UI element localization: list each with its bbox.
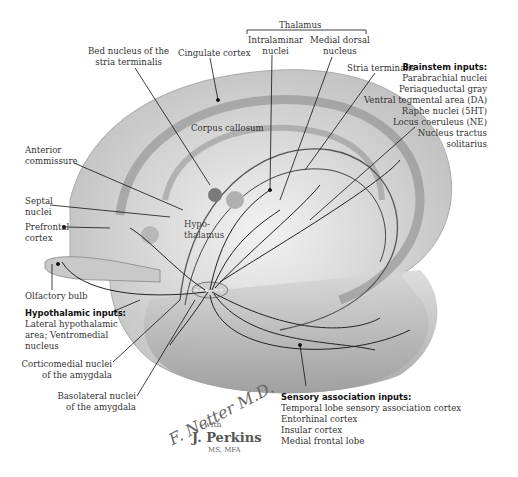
hypothalamic-inputs-list: Hypothalamic inputs: Lateral hypothalami… <box>25 308 126 352</box>
label-olfactory-bulb: Olfactory bulb <box>25 291 88 302</box>
label-prefrontal-cortex: Prefrontal cortex <box>25 222 69 244</box>
amygdala-inputs-illustration: Thalamus Intralaminar nuclei Medial dors… <box>0 0 518 477</box>
sensory-association-inputs-heading: Sensory association inputs: <box>281 392 461 403</box>
label-thalamus: Thalamus <box>279 20 321 31</box>
hypothalamic-inputs-heading: Hypothalamic inputs: <box>25 308 126 319</box>
label-intralaminar-nuclei: Intralaminar nuclei <box>248 35 303 57</box>
label-hypothalamus: Hypo- thalamus <box>184 219 224 241</box>
label-corticomedial-nuclei: Corticomedial nuclei of the amygdala <box>21 359 112 381</box>
label-medial-dorsal-nucleus: Medial dorsal nucleus <box>310 35 370 57</box>
label-septal-nuclei: Septal nuclei <box>25 196 53 218</box>
signature-credentials: MS, MFA <box>208 446 241 454</box>
sensory-association-inputs-list: Sensory association inputs: Temporal lob… <box>281 392 461 447</box>
brainstem-inputs-heading: Brainstem inputs: <box>364 62 487 73</box>
label-basolateral-nuclei: Basolateral nuclei of the amygdala <box>57 391 136 413</box>
brainstem-inputs-list: Brainstem inputs: Parabrachial nuclei Pe… <box>364 62 487 150</box>
label-cingulate-cortex: Cingulate cortex <box>178 48 251 59</box>
label-corpus-callosum: Corpus callosum <box>191 123 264 134</box>
label-bed-nucleus-stria-terminalis: Bed nucleus of the stria terminalis <box>88 46 169 68</box>
signature-coauthor: J. Perkins <box>192 430 261 445</box>
signature-with: with <box>204 420 222 429</box>
label-anterior-commissure: Anterior commissure <box>25 145 78 167</box>
